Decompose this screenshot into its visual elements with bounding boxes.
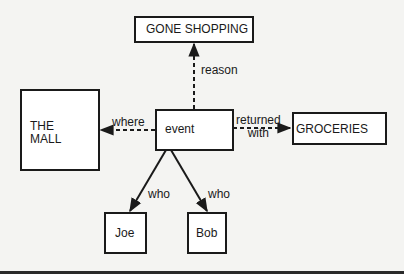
node-gone-shopping-label: GONE SHOPPING (146, 23, 248, 36)
edge-label-returned-with: returned with (236, 114, 281, 140)
node-gone-shopping: GONE SHOPPING (134, 16, 254, 43)
node-event-label: event (165, 123, 194, 136)
node-event: event (155, 109, 234, 151)
node-joe: Joe (104, 212, 147, 254)
node-bob: Bob (187, 212, 227, 254)
node-the-mall-label: THE MALL (30, 120, 61, 146)
node-the-mall: THE MALL (20, 89, 100, 171)
edge-label-reason: reason (201, 64, 238, 77)
edge-who-bob (171, 150, 207, 211)
edge-label-who-bob: who (208, 188, 230, 201)
node-joe-label: Joe (115, 227, 134, 240)
edge-label-who-joe: who (148, 188, 170, 201)
edge-who-joe (130, 150, 166, 211)
node-groceries: GROCERIES (292, 112, 387, 145)
edge-label-where: where (112, 116, 145, 129)
node-bob-label: Bob (196, 227, 217, 240)
node-groceries-label: GROCERIES (296, 123, 368, 136)
